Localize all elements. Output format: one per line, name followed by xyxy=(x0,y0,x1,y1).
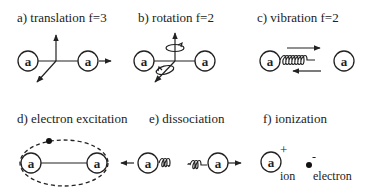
panel-vibration: c) vibration f=2 a a xyxy=(257,10,354,71)
broken-spring-left xyxy=(159,159,170,167)
atom-label: a xyxy=(94,156,101,171)
atom-label: a xyxy=(268,155,275,170)
atom-label: a xyxy=(341,54,348,69)
panel-electron-excitation: d) electron excitation a a xyxy=(17,111,128,186)
atom-label: a xyxy=(25,54,32,69)
electron-label: electron xyxy=(313,169,352,183)
spring xyxy=(280,56,315,65)
panel-label: f) ionization xyxy=(263,111,327,126)
y-axis-arrow xyxy=(37,61,56,82)
electron-dot xyxy=(46,138,52,144)
ion-charge: + xyxy=(280,142,287,157)
atom-label: a xyxy=(202,54,209,69)
atom-label: a xyxy=(85,54,92,69)
atom-label: a xyxy=(145,156,152,171)
atom-label: a xyxy=(267,54,274,69)
panel-label: c) vibration f=2 xyxy=(257,10,339,25)
electron-charge: - xyxy=(312,150,316,164)
panel-label: e) dissociation xyxy=(149,111,225,126)
panel-ionization: f) ionization a + ion - electron xyxy=(261,111,352,183)
panel-label: a) translation f=3 xyxy=(17,10,107,25)
panel-dissociation: e) dissociation a a xyxy=(121,111,241,173)
panel-rotation: b) rotation f=2 a a xyxy=(134,10,215,82)
atom-label: a xyxy=(28,156,35,171)
panel-label: d) electron excitation xyxy=(17,111,128,126)
panel-translation: a) translation f=3 a a xyxy=(17,10,111,82)
atom-label: a xyxy=(215,156,222,171)
atom-label: a xyxy=(141,54,148,69)
molecular-motion-diagram: a) translation f=3 a a b) rotation f=2 a… xyxy=(0,0,371,195)
ion-label: ion xyxy=(280,169,295,183)
broken-spring-right xyxy=(188,161,207,169)
panel-label: b) rotation f=2 xyxy=(138,10,214,25)
